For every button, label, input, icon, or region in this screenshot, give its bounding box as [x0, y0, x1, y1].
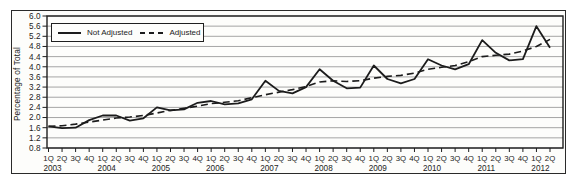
y-tick-label: 3.2 [29, 83, 41, 92]
y-tick-label: 5.2 [29, 32, 41, 41]
x-tick-label: 2Q [382, 154, 392, 163]
legend-label-not-adjusted: Not Adjusted [85, 28, 136, 37]
x-tick-label: 1Q [477, 154, 487, 163]
x-tick-label: 3Q [125, 154, 135, 163]
x-year-label: 2009 [369, 164, 388, 173]
x-tick-label: 3Q [287, 154, 297, 163]
not-adjusted-line-sample-icon [58, 32, 81, 34]
y-tick-label: 4.4 [29, 53, 41, 62]
x-tick-label: 4Q [247, 154, 257, 163]
x-year-label: 2011 [477, 164, 495, 173]
legend: Not Adjusted Adjusted [51, 23, 204, 42]
x-tick-label: 1Q [43, 154, 53, 163]
x-year-label: 2008 [314, 164, 333, 173]
x-tick-label: 2Q [165, 154, 175, 163]
x-tick-label: 4Q [301, 154, 311, 163]
x-year-label: 2007 [260, 164, 279, 173]
x-tick-label: 2Q [57, 154, 67, 163]
x-tick-label: 3Q [396, 154, 406, 163]
y-tick-label: 2.8 [29, 93, 41, 102]
x-tick-label: 4Q [84, 154, 94, 163]
x-tick-label: 1Q [423, 154, 433, 163]
legend-label-adjusted: Adjusted [167, 28, 204, 37]
y-tick-label: 2.0 [29, 113, 41, 122]
x-year-label: 2012 [531, 164, 550, 173]
x-tick-label: 1Q [206, 154, 216, 163]
x-tick-label: 2Q [111, 154, 121, 163]
x-year-label: 2005 [152, 164, 171, 173]
x-tick-label: 4Q [192, 154, 202, 163]
x-tick-label: 1Q [98, 154, 108, 163]
x-tick-label: 2Q [545, 154, 555, 163]
y-tick-label: 2.4 [29, 103, 41, 112]
x-tick-label: 2Q [219, 154, 229, 163]
x-tick-label: 4Q [355, 154, 365, 163]
x-tick-label: 4Q [409, 154, 419, 163]
x-year-label: 2004 [98, 164, 117, 173]
y-tick-label: 1.2 [29, 134, 41, 143]
y-tick-label: 6.0 [29, 12, 41, 21]
x-tick-label: 2Q [274, 154, 284, 163]
x-year-label: 2006 [206, 164, 225, 173]
x-tick-label: 3Q [179, 154, 189, 163]
x-year-label: 2010 [423, 164, 442, 173]
y-tick-label: 3.6 [29, 73, 41, 82]
x-tick-label: 2Q [328, 154, 338, 163]
x-tick-label: 4Q [138, 154, 148, 163]
y-tick-label: 5.6 [29, 22, 41, 31]
x-tick-label: 4Q [463, 154, 473, 163]
y-tick-label: 4.0 [29, 63, 41, 72]
y-tick-label: 0.8 [29, 144, 41, 153]
y-tick-label: 4.8 [29, 42, 41, 51]
x-tick-label: 4Q [518, 154, 528, 163]
x-tick-label: 1Q [369, 154, 379, 163]
x-tick-label: 3Q [341, 154, 351, 163]
y-axis-title: Percentage of Total [13, 14, 25, 154]
x-tick-label: 3Q [504, 154, 514, 163]
x-tick-label: 1Q [260, 154, 270, 163]
x-tick-label: 3Q [233, 154, 243, 163]
x-tick-label: 1Q [314, 154, 324, 163]
x-tick-label: 1Q [152, 154, 162, 163]
x-tick-label: 1Q [531, 154, 541, 163]
x-tick-label: 3Q [70, 154, 80, 163]
x-tick-label: 2Q [436, 154, 446, 163]
adjusted-line-sample-icon [140, 32, 163, 34]
x-year-label: 2003 [43, 164, 62, 173]
x-tick-label: 3Q [450, 154, 460, 163]
x-tick-label: 2Q [491, 154, 501, 163]
y-tick-label: 1.6 [29, 124, 41, 133]
